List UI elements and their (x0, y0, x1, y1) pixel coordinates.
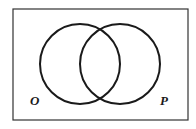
set-p-label: P (160, 93, 169, 108)
set-o-label: O (30, 93, 40, 108)
venn-diagram: O P (0, 0, 196, 129)
